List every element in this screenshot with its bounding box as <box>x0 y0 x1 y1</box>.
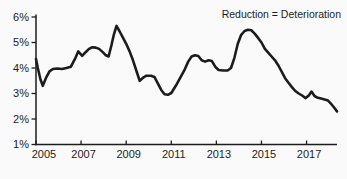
x-tick-label: 2017 <box>297 148 321 160</box>
data-line <box>36 26 337 112</box>
y-tick-label: 1% <box>13 138 29 150</box>
y-tick-label: 5% <box>13 36 29 48</box>
x-tick-label: 2015 <box>252 148 276 160</box>
line-chart: 1%2%3%4%5%6%2005200720092011201320152017… <box>0 0 347 179</box>
x-tick-label: 2013 <box>207 148 231 160</box>
series-rate-percent <box>36 26 337 112</box>
y-tick-label: 2% <box>13 113 29 125</box>
x-tick-label: 2005 <box>32 148 56 160</box>
y-tick-label: 3% <box>13 87 29 99</box>
y-tick-label: 4% <box>13 62 29 74</box>
chart-canvas: 1%2%3%4%5%6%2005200720092011201320152017… <box>0 0 347 179</box>
x-tick-label: 2007 <box>71 148 95 160</box>
x-tick-label: 2009 <box>116 148 140 160</box>
y-tick-label: 6% <box>13 11 29 23</box>
x-tick-label: 2011 <box>162 148 186 160</box>
chart-annotation: Reduction = Deterioration <box>222 8 342 20</box>
